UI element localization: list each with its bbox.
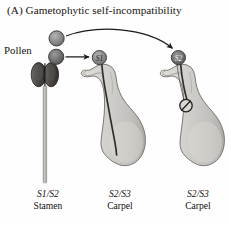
pollen-grain-on-stigma-compatible: S1 [92,51,106,65]
carpel-incompatible-structure: S2 [160,51,224,166]
carpel-compatible-structure: S1 [81,51,145,166]
pollen-label: Pollen [4,44,32,56]
carpel-incompatible-organ: Carpel [150,200,231,212]
arrow-upper-to-incompatible-carpel [66,29,172,48]
anther [31,63,58,87]
ovary-highlight [188,122,222,163]
caption-carpel-incompatible: S2/S3 Carpel [150,188,231,211]
pollen-allele-label-incompatible: S2 [175,54,183,63]
blocked-symbol-icon [180,99,192,111]
stamen-structure [31,63,58,184]
figure-panel-a: S1 S2 [0,0,231,225]
pollen-grain-on-stigma-incompatible: S2 [171,51,185,65]
pollen-grain-upper [49,31,64,46]
carpel-incompatible-genotype: S2/S3 [150,188,231,200]
pollen-allele-label-compatible: S1 [96,54,103,63]
pollen-grain-lower [49,49,64,64]
panel-title: (A) Gametophytic self-incompatibility [7,4,182,16]
